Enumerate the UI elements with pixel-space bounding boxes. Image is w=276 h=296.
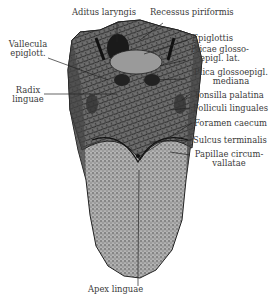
label-papillae-circumvallatae: Papillae circum- vallatae: [192, 150, 266, 168]
label-tonsilla-palatina: Tonsilla palatina: [194, 91, 264, 100]
epiglottis-shape: [110, 50, 162, 74]
label-sulcus-terminalis: Sulcus terminalis: [193, 136, 267, 145]
tongue-anatomy-figure: Aditus laryngis Recessus piriformis Vall…: [0, 0, 276, 296]
label-radix-linguae: Radix linguae: [10, 86, 46, 104]
label-recessus-piriformis: Recessus piriformis: [150, 8, 234, 17]
label-folliculi-linguales: Folliculi linguales: [193, 104, 268, 113]
label-foramen-caecum: Foramen caecum: [194, 119, 267, 128]
label-plicae-glossoepigl-lat: Plicae glosso- epigl. lat.: [186, 45, 254, 63]
label-plica-glossoepigl-mediana: Plica glossoepigl. mediana: [190, 68, 272, 86]
label-epiglottis: Epiglottis: [192, 34, 233, 43]
foramen-caecum-point: [136, 154, 140, 158]
label-apex-linguae: Apex linguae: [88, 285, 143, 294]
label-vallecula-epiglott: Vallecula epiglott.: [4, 40, 52, 58]
label-aditus-laryngis: Aditus laryngis: [72, 8, 136, 17]
